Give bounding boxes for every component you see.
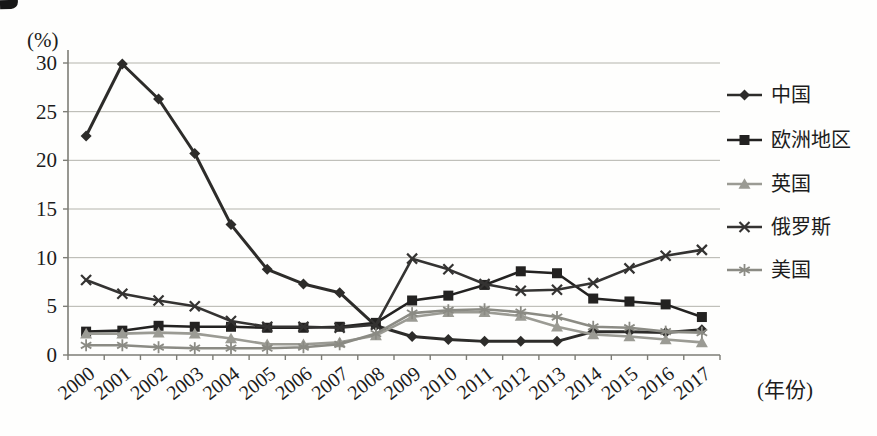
chart-figure: (%) (年份) 0510152025302000200120022003200…: [0, 0, 877, 436]
y-tick-label: 0: [47, 343, 58, 367]
x-tick-label: 2012: [488, 362, 533, 404]
y-tick-label: 20: [36, 148, 57, 172]
x-tick-label: 2009: [380, 362, 425, 404]
y-tick-label: 15: [36, 197, 57, 221]
diamond-marker: [479, 336, 490, 347]
line-chart: (%) (年份) 0510152025302000200120022003200…: [0, 0, 877, 436]
diamond-marker: [443, 334, 454, 345]
diamond-marker: [515, 336, 526, 347]
legend-item-europe: 欧洲地区: [727, 129, 851, 151]
square-marker: [740, 135, 750, 145]
y-tick-label: 10: [36, 246, 57, 270]
y-axis-unit-label: (%): [27, 28, 58, 52]
square-marker: [516, 266, 526, 276]
y-tick-label: 5: [47, 294, 58, 318]
square-marker: [697, 312, 707, 322]
x-tick-label: 2001: [90, 362, 135, 404]
x-tick-label: 2014: [561, 362, 606, 404]
square-marker: [407, 295, 417, 305]
square-marker: [624, 296, 634, 306]
series-line-usa: [86, 309, 702, 348]
legend-item-uk: 英国: [727, 173, 811, 195]
x-tick-label: 2010: [416, 362, 461, 404]
y-tick-label: 25: [36, 100, 57, 124]
x-tick-label: 2007: [307, 362, 352, 404]
x-tick-label: 2003: [162, 362, 207, 404]
x-tick-label: 2006: [271, 362, 316, 404]
diamond-marker: [81, 131, 92, 142]
diamond-marker: [739, 90, 750, 101]
x-tick-label: 2002: [126, 362, 171, 404]
legend: 中国欧洲地区英国俄罗斯美国: [727, 84, 851, 281]
x-tick-label: 2013: [524, 362, 569, 404]
legend-label-russia: 俄罗斯: [771, 216, 831, 238]
legend-label-uk: 英国: [771, 173, 811, 195]
x-tick-label: 2005: [235, 362, 280, 404]
x-tick-label: 2008: [343, 362, 388, 404]
x-tick-label: 2015: [597, 362, 642, 404]
x-axis-unit-label: (年份): [757, 378, 813, 402]
square-marker: [552, 268, 562, 278]
x-tick-label: 2000: [54, 362, 99, 404]
series-line-russia: [86, 250, 702, 328]
legend-item-russia: 俄罗斯: [727, 216, 831, 238]
legend-label-china: 中国: [771, 84, 811, 106]
plot-area: 0510152025302000200120022003200420052006…: [36, 50, 720, 404]
diamond-marker: [298, 278, 309, 289]
legend-item-china: 中国: [727, 84, 811, 106]
legend-item-usa: 美国: [727, 259, 811, 281]
diamond-marker: [552, 336, 563, 347]
x-tick-label: 2016: [633, 362, 678, 404]
square-marker: [588, 294, 598, 304]
x-tick-label: 2017: [669, 362, 714, 404]
legend-label-usa: 美国: [771, 259, 811, 281]
diamond-marker: [407, 331, 418, 342]
square-marker: [443, 291, 453, 301]
legend-label-europe: 欧洲地区: [771, 129, 851, 151]
x-tick-label: 2004: [198, 362, 243, 404]
square-marker: [661, 299, 671, 309]
x-tick-label: 2011: [453, 362, 497, 404]
y-tick-label: 30: [36, 51, 57, 75]
